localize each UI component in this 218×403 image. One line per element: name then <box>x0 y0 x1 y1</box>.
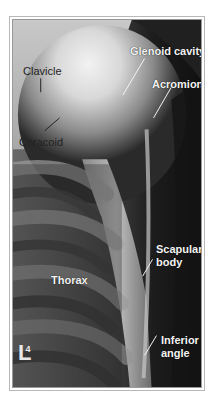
side-marker: L4 <box>18 342 36 364</box>
label-scapular-body-line1: Scapular <box>156 243 202 255</box>
label-glenoid-cavity: Glenoid cavity <box>130 45 202 57</box>
label-clavicle: Clavicle <box>23 65 62 77</box>
side-marker-subscript: 4 <box>25 344 30 354</box>
label-scapular-body-line2: body <box>156 256 182 268</box>
xray-image-frame: Clavicle Coracoid Glenoid cavity Acromio… <box>12 19 202 388</box>
label-acromion: Acromion <box>152 78 202 90</box>
label-coracoid: Coracoid <box>19 136 63 148</box>
label-thorax: Thorax <box>51 274 88 286</box>
label-inferior-angle-line1: Inferior <box>161 334 199 346</box>
label-inferior-angle-line2: angle <box>161 347 190 359</box>
